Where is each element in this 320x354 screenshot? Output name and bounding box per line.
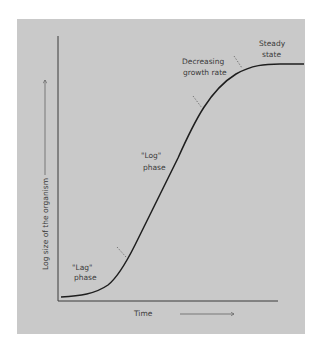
growth-curve-line bbox=[61, 64, 304, 297]
annotation-log-line2: phase bbox=[143, 163, 166, 172]
annotation-decreasing-line1: Decreasing bbox=[182, 57, 224, 66]
phase-marker-lag-log bbox=[117, 247, 126, 257]
x-axis-label: Time bbox=[133, 309, 153, 318]
phase-marker-log-decreasing bbox=[193, 96, 202, 108]
annotation-log-line1: "Log" bbox=[141, 151, 161, 160]
annotation-lag-line2: phase bbox=[74, 273, 97, 282]
y-axis-label: Log size of the organism bbox=[41, 178, 50, 270]
phase-marker-decreasing-steady bbox=[234, 56, 242, 68]
growth-curve-chart: Log size of the organism Time "Lag" phas… bbox=[0, 0, 320, 354]
annotation-lag-line1: "Lag" bbox=[72, 263, 92, 272]
annotation-decreasing-line2: growth rate bbox=[183, 68, 227, 77]
annotation-steady-line1: Steady bbox=[259, 39, 286, 48]
annotation-steady-line2: state bbox=[262, 50, 281, 59]
